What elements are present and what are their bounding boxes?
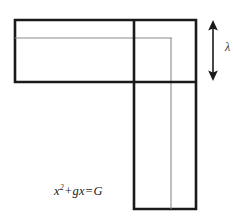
dimension-arrow	[208, 20, 218, 81]
equation-caption: x2+gx=G	[54, 181, 103, 198]
lambda-dimension-label: λ	[225, 40, 230, 54]
equation-rest: +gx=G	[64, 184, 103, 198]
figure-root: x2+gx=G λ	[0, 0, 233, 222]
outer-gnomon-outline	[15, 20, 196, 209]
gnomon-diagram-svg	[0, 0, 233, 222]
